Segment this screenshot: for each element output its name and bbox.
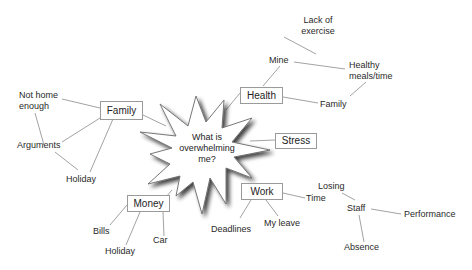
node-lack-of-exercise: Lack of exercise [298, 15, 338, 37]
node-health: Health [240, 87, 283, 104]
node-healthy-meals-time: Healthy meals/time [349, 60, 393, 82]
node-money: Money [127, 195, 170, 212]
node-lack-of-exercise-line2: exercise [298, 26, 338, 37]
node-my-leave: My leave [264, 218, 300, 229]
node-not-home-enough: Not home enough [19, 90, 58, 112]
node-arguments: Arguments [17, 140, 61, 151]
center-question: What is overwhelming me? [172, 132, 242, 165]
node-healthy-meals-time-line2: meals/time [349, 71, 393, 82]
node-lack-of-exercise-line1: Lack of [298, 15, 338, 26]
node-mine: Mine [269, 55, 289, 66]
node-not-home-enough-line1: Not home [19, 90, 58, 101]
node-family: Family [100, 101, 143, 120]
node-stress: Stress [275, 133, 317, 149]
node-losing: Losing [318, 181, 345, 192]
node-deadlines: Deadlines [211, 224, 251, 235]
node-absence: Absence [344, 242, 379, 253]
center-question-line2: overwhelming [172, 143, 242, 154]
node-time: Time [306, 193, 326, 204]
center-question-line1: What is [172, 132, 242, 143]
node-work: Work [241, 183, 283, 200]
node-bills: Bills [93, 226, 110, 237]
node-performance: Performance [404, 209, 456, 220]
node-staff: Staff [347, 203, 365, 214]
node-not-home-enough-line2: enough [19, 101, 58, 112]
node-healthy-meals-time-line1: Healthy [349, 60, 393, 71]
node-money-holiday: Holiday [105, 246, 135, 257]
center-question-line3: me? [172, 154, 242, 165]
node-family-holiday: Holiday [66, 174, 96, 185]
node-health-family: Family [320, 99, 347, 110]
node-car: Car [153, 235, 168, 246]
